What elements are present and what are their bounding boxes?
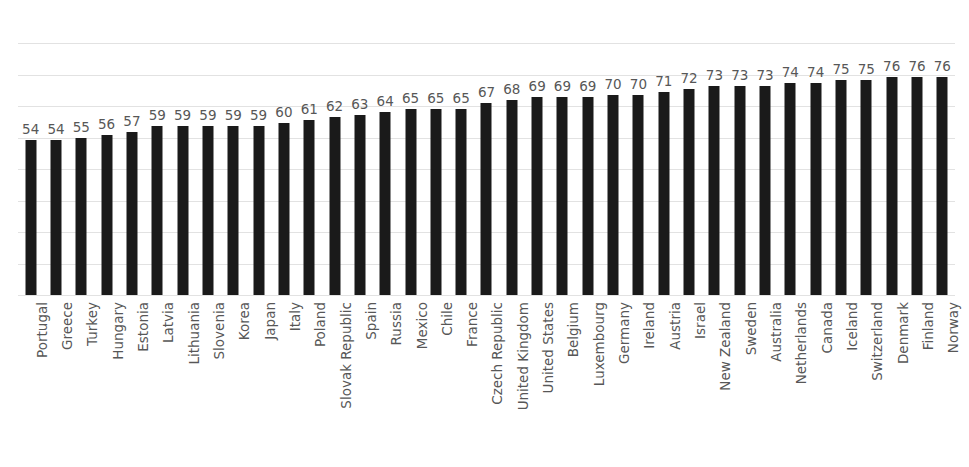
category-tick: Hungary: [94, 300, 119, 460]
category-tick: Poland: [297, 300, 322, 460]
bar[interactable]: [202, 126, 213, 295]
bar[interactable]: [658, 92, 669, 295]
category-tick: France: [449, 300, 474, 460]
bar[interactable]: [481, 103, 492, 295]
bar[interactable]: [405, 109, 416, 295]
bar-group: 76: [904, 43, 929, 295]
category-tick: Greece: [43, 300, 68, 460]
category-tick: Mexico: [398, 300, 423, 460]
bar-group: 55: [69, 43, 94, 295]
bar[interactable]: [304, 120, 315, 295]
category-tick: Finland: [904, 300, 929, 460]
bar-group: 76: [879, 43, 904, 295]
bar-group: 65: [423, 43, 448, 295]
category-tick: Austria: [651, 300, 676, 460]
bars-layer: 5454555657595959595960616263646565656768…: [18, 43, 955, 295]
category-tick: Switzerland: [854, 300, 879, 460]
bar[interactable]: [760, 86, 771, 295]
bar[interactable]: [50, 140, 61, 295]
bar[interactable]: [785, 83, 796, 295]
category-tick: Latvia: [145, 300, 170, 460]
bar[interactable]: [101, 135, 112, 295]
bar[interactable]: [329, 117, 340, 295]
category-tick: United Kingdom: [499, 300, 524, 460]
bar[interactable]: [937, 77, 948, 295]
bar-group: 59: [145, 43, 170, 295]
bar-group: 61: [297, 43, 322, 295]
bar-group: 54: [43, 43, 68, 295]
bar[interactable]: [76, 138, 87, 296]
bar[interactable]: [380, 112, 391, 295]
bar[interactable]: [810, 83, 821, 295]
bar-group: 59: [246, 43, 271, 295]
bar[interactable]: [253, 126, 264, 295]
bar-group: 54: [18, 43, 43, 295]
category-tick: United States: [524, 300, 549, 460]
bar[interactable]: [836, 80, 847, 295]
bar-group: 62: [322, 43, 347, 295]
category-tick: Russia: [373, 300, 398, 460]
bar-group: 76: [930, 43, 955, 295]
bar-group: 75: [828, 43, 853, 295]
bar[interactable]: [557, 97, 568, 295]
bar[interactable]: [734, 86, 745, 295]
category-tick: Sweden: [727, 300, 752, 460]
category-tick: Estonia: [119, 300, 144, 460]
bar[interactable]: [354, 115, 365, 295]
category-tick: Portugal: [18, 300, 43, 460]
category-tick: New Zealand: [702, 300, 727, 460]
category-tick: Iceland: [828, 300, 853, 460]
category-tick: Slovak Republic: [322, 300, 347, 460]
gridline: [18, 295, 955, 296]
category-tick: Belgium: [550, 300, 575, 460]
category-tick: Lithuania: [170, 300, 195, 460]
category-tick: Spain: [347, 300, 372, 460]
bar-value-label: 76: [922, 58, 962, 74]
category-tick: Czech Republic: [474, 300, 499, 460]
bar-group: 59: [195, 43, 220, 295]
category-tick: Norway: [930, 300, 955, 460]
bar[interactable]: [430, 109, 441, 295]
bar-group: 59: [170, 43, 195, 295]
bar[interactable]: [582, 97, 593, 295]
category-axis: PortugalGreeceTurkeyHungaryEstoniaLatvia…: [18, 300, 955, 460]
bar[interactable]: [633, 95, 644, 295]
bar[interactable]: [709, 86, 720, 295]
bar[interactable]: [278, 123, 289, 295]
bar[interactable]: [456, 109, 467, 295]
bar[interactable]: [886, 77, 897, 295]
bar[interactable]: [506, 100, 517, 295]
category-tick: Japan: [246, 300, 271, 460]
bar-group: 57: [119, 43, 144, 295]
category-tick: Canada: [803, 300, 828, 460]
bar[interactable]: [532, 97, 543, 295]
bar-group: 73: [752, 43, 777, 295]
category-tick: Luxembourg: [575, 300, 600, 460]
bar[interactable]: [861, 80, 872, 295]
bar-group: 75: [854, 43, 879, 295]
bar[interactable]: [25, 140, 36, 295]
category-tick: Denmark: [879, 300, 904, 460]
bar[interactable]: [228, 126, 239, 295]
category-tick: Netherlands: [778, 300, 803, 460]
bar-group: 59: [221, 43, 246, 295]
bar[interactable]: [684, 89, 695, 295]
bar[interactable]: [152, 126, 163, 295]
plot-area: 5454555657595959595960616263646565656768…: [18, 43, 955, 295]
bar-group: 56: [94, 43, 119, 295]
category-tick: Korea: [221, 300, 246, 460]
category-tick: Ireland: [626, 300, 651, 460]
bar[interactable]: [608, 95, 619, 295]
category-tick: Germany: [600, 300, 625, 460]
bar[interactable]: [912, 77, 923, 295]
bar-group: 74: [803, 43, 828, 295]
category-tick: Turkey: [69, 300, 94, 460]
bar[interactable]: [126, 132, 137, 295]
bar-chart: 5454555657595959595960616263646565656768…: [0, 0, 969, 467]
bar[interactable]: [177, 126, 188, 295]
bar-group: 65: [449, 43, 474, 295]
bar-group: 74: [778, 43, 803, 295]
category-tick: Chile: [423, 300, 448, 460]
category-tick: Italy: [271, 300, 296, 460]
category-label: Norway: [947, 302, 961, 353]
